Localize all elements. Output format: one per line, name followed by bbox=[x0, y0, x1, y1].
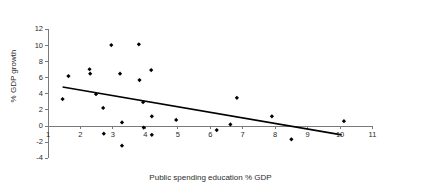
data-point bbox=[137, 42, 141, 46]
data-point bbox=[270, 114, 274, 118]
data-point bbox=[101, 106, 105, 110]
data-point bbox=[87, 67, 91, 71]
data-point bbox=[137, 78, 141, 82]
data-point bbox=[289, 137, 293, 141]
x-tick-label: 5 bbox=[168, 131, 188, 139]
x-tick-label: 11 bbox=[363, 131, 383, 139]
x-tick-label: 3 bbox=[103, 131, 123, 139]
y-tick-label: 6 bbox=[21, 74, 43, 82]
data-point bbox=[149, 68, 153, 72]
scatter-chart: -4-20246810121234567891011 Public spendi… bbox=[0, 0, 421, 192]
x-tick-label: 10 bbox=[330, 131, 350, 139]
data-point bbox=[118, 72, 122, 76]
y-tick-label: 0 bbox=[21, 122, 43, 130]
data-point bbox=[342, 119, 346, 123]
y-tick-label: 4 bbox=[21, 90, 43, 98]
y-axis-title: % GDP growth bbox=[10, 36, 18, 116]
y-tick-label: 8 bbox=[21, 58, 43, 66]
plot-area bbox=[0, 0, 421, 192]
x-tick-label: 9 bbox=[298, 131, 318, 139]
y-tick-label: -4 bbox=[21, 154, 43, 162]
y-tick-label: 10 bbox=[21, 42, 43, 50]
data-point bbox=[66, 74, 70, 78]
x-tick-label: 1 bbox=[38, 131, 58, 139]
x-tick-label: 8 bbox=[265, 131, 285, 139]
data-point bbox=[61, 97, 65, 101]
x-axis-title: Public spending education % GDP bbox=[0, 174, 421, 182]
data-point bbox=[109, 43, 113, 47]
data-point bbox=[174, 118, 178, 122]
data-point bbox=[235, 96, 239, 100]
x-tick-label: 4 bbox=[135, 131, 155, 139]
data-point bbox=[120, 120, 124, 124]
y-tick-label: -2 bbox=[21, 138, 43, 146]
x-tick-label: 7 bbox=[233, 131, 253, 139]
y-tick-label: 2 bbox=[21, 106, 43, 114]
trend-line bbox=[63, 87, 342, 135]
data-point bbox=[120, 144, 124, 148]
x-tick-label: 2 bbox=[70, 131, 90, 139]
data-point bbox=[88, 72, 92, 76]
data-point bbox=[150, 114, 154, 118]
x-tick-label: 6 bbox=[200, 131, 220, 139]
y-tick-label: 12 bbox=[21, 25, 43, 33]
